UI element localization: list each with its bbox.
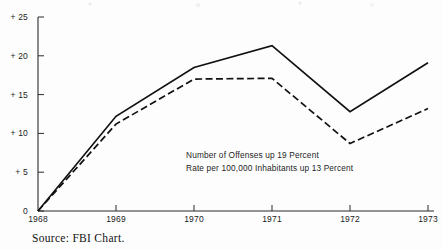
x-tick-label: 1972 (332, 214, 368, 224)
x-tick-label: 1970 (176, 214, 212, 224)
source-note: Source: FBI Chart. (32, 232, 125, 244)
y-tick-label: + 10 (2, 128, 28, 138)
x-tick-label: 1968 (20, 214, 56, 224)
chart-container: 0+ 5+ 10+ 15+ 20+ 25 1968196919701971197… (0, 0, 443, 250)
x-axis-ticks (116, 205, 428, 211)
x-tick-label: 1971 (254, 214, 290, 224)
y-tick-label: + 15 (2, 90, 28, 100)
y-axis-ticks (38, 17, 44, 211)
axes-group (38, 17, 434, 211)
x-tick-label: 1973 (410, 214, 443, 224)
annotation-offenses: Number of Offenses up 19 Percent (186, 149, 353, 162)
annotation-rate: Rate per 100,000 Inhabitants up 13 Perce… (186, 162, 353, 175)
series-line-rate (38, 78, 428, 211)
x-tick-label: 1969 (98, 214, 134, 224)
y-tick-label: + 5 (2, 167, 28, 177)
line-chart-plot (0, 0, 443, 250)
y-tick-label: + 25 (2, 12, 28, 22)
chart-annotations: Number of Offenses up 19 Percent Rate pe… (186, 149, 353, 175)
series-line-offenses (38, 46, 428, 211)
y-tick-label: + 20 (2, 51, 28, 61)
